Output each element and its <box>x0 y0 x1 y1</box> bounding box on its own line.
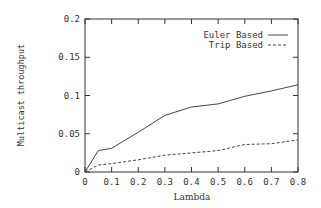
x-axis-ticks: 00.10.20.30.40.50.60.70.8 <box>82 19 306 187</box>
x-tick-label: 0.1 <box>103 177 119 187</box>
x-tick-label: 0.4 <box>183 177 199 187</box>
x-tick-label: 0.5 <box>210 177 226 187</box>
x-tick-label: 0.8 <box>290 177 306 187</box>
x-tick-label: 0.2 <box>130 177 146 187</box>
y-tick-label: 0.1 <box>64 91 80 101</box>
x-tick-label: 0.3 <box>157 177 173 187</box>
y-tick-label: 0.2 <box>64 14 80 24</box>
series-line-euler-based <box>85 85 298 172</box>
plot-border <box>85 19 298 172</box>
x-tick-label: 0 <box>82 177 87 187</box>
x-tick-label: 0.7 <box>263 177 279 187</box>
y-tick-label: 0.15 <box>58 52 80 62</box>
legend-label-trip: Trip Based <box>209 40 263 50</box>
x-axis-label: Lambda <box>174 192 211 202</box>
y-tick-label: 0.05 <box>58 129 80 139</box>
series-layer <box>85 85 298 172</box>
y-tick-label: 0 <box>75 167 80 177</box>
x-tick-label: 0.6 <box>237 177 253 187</box>
plot-frame <box>85 19 298 172</box>
y-axis-label: Multicast throughput <box>16 44 26 146</box>
legend-label-euler: Euler Based <box>203 30 263 40</box>
legend: Euler Based Trip Based <box>203 30 288 50</box>
line-chart: 00.050.10.150.2 00.10.20.30.40.50.60.70.… <box>0 0 321 208</box>
